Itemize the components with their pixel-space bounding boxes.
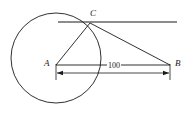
label-point-a: A (44, 59, 50, 68)
segment-c-to-b (90, 23, 170, 65)
label-point-c: C (90, 9, 96, 18)
label-distance-ab: 100 (107, 62, 121, 70)
dimension-arrow-left-icon (57, 71, 63, 75)
dimension-arrow-right-icon (163, 71, 169, 75)
geometry-figure: A B C 100 (0, 0, 190, 115)
label-point-b: B (175, 59, 181, 68)
segment-a-to-c (56, 23, 90, 65)
